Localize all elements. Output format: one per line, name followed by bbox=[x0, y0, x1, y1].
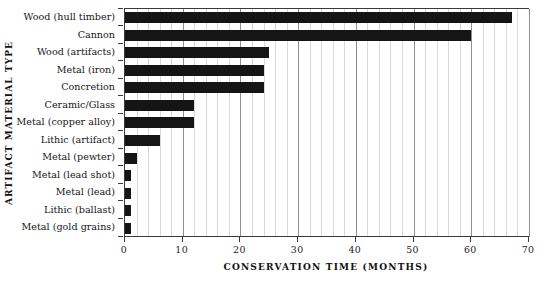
x-axis-title: CONSERVATION TIME (MONTHS) bbox=[124, 262, 528, 272]
x-tick-mark bbox=[182, 237, 183, 242]
y-tick-mark bbox=[118, 8, 123, 9]
bar-row bbox=[125, 149, 529, 167]
y-axis-tick-label: Metal (iron) bbox=[14, 61, 120, 79]
bar-chart: ARTIFACT MATERIAL TYPE Wood (hull timber… bbox=[0, 0, 544, 284]
y-tick-cell bbox=[118, 113, 124, 131]
y-tick-mark bbox=[118, 183, 123, 184]
y-tick-mark bbox=[118, 95, 123, 96]
y-tick-cell bbox=[118, 43, 124, 61]
bar-row bbox=[125, 114, 529, 132]
y-tick-mark bbox=[118, 200, 123, 201]
y-axis-tick-label: Lithic (artifact) bbox=[14, 131, 120, 149]
bar-row bbox=[125, 62, 529, 80]
y-tick-cell bbox=[118, 166, 124, 184]
bar bbox=[125, 12, 512, 23]
y-tick-mark bbox=[118, 165, 123, 166]
y-axis-tick-labels: Wood (hull timber)CannonWood (artifacts)… bbox=[14, 8, 120, 236]
x-axis-tick-labels: 010203040506070 bbox=[124, 244, 528, 258]
y-axis-title-label: ARTIFACT MATERIAL TYPE bbox=[4, 40, 14, 204]
bar bbox=[125, 65, 264, 76]
bar-row bbox=[125, 97, 529, 115]
x-tick-mark bbox=[297, 237, 298, 242]
x-tick-label: 60 bbox=[464, 244, 477, 255]
bar-row bbox=[125, 132, 529, 150]
gridline-major bbox=[529, 9, 530, 237]
bar-row bbox=[125, 184, 529, 202]
bar-row bbox=[125, 202, 529, 220]
bar bbox=[125, 30, 471, 41]
x-tick-mark bbox=[470, 237, 471, 242]
x-tick-mark bbox=[528, 237, 529, 242]
x-tick-label: 70 bbox=[522, 244, 535, 255]
x-tick-label: 50 bbox=[406, 244, 419, 255]
y-tick-cell bbox=[118, 8, 124, 26]
bar bbox=[125, 117, 194, 128]
bar-series bbox=[125, 9, 529, 237]
bar bbox=[125, 135, 160, 146]
x-tick-label: 10 bbox=[175, 244, 188, 255]
y-tick-mark bbox=[118, 25, 123, 26]
y-tick-cell bbox=[118, 148, 124, 166]
bar bbox=[125, 188, 131, 199]
y-axis-ticks bbox=[118, 8, 124, 236]
y-axis-tick-label: Metal (pewter) bbox=[14, 148, 120, 166]
y-axis-tick-label: Metal (lead shot) bbox=[14, 166, 120, 184]
x-tick-label: 40 bbox=[348, 244, 361, 255]
y-tick-cell bbox=[118, 131, 124, 149]
y-axis-tick-label: Wood (artifacts) bbox=[14, 43, 120, 61]
y-tick-cell bbox=[118, 78, 124, 96]
plot-area bbox=[124, 8, 529, 237]
bar-row bbox=[125, 27, 529, 45]
bar bbox=[125, 82, 264, 93]
y-axis-tick-label: Lithic (ballast) bbox=[14, 201, 120, 219]
x-tick-mark bbox=[413, 237, 414, 242]
y-tick-mark bbox=[118, 60, 123, 61]
bar-row bbox=[125, 79, 529, 97]
y-axis-end-tick bbox=[118, 236, 123, 237]
bar bbox=[125, 100, 194, 111]
y-axis-tick-label: Wood (hull timber) bbox=[14, 8, 120, 26]
y-tick-mark bbox=[118, 78, 123, 79]
bar-row bbox=[125, 219, 529, 237]
bar bbox=[125, 205, 131, 216]
bar bbox=[125, 47, 269, 58]
x-tick-label: 0 bbox=[121, 244, 127, 255]
y-tick-cell bbox=[118, 61, 124, 79]
y-tick-cell bbox=[118, 201, 124, 219]
bar-row bbox=[125, 44, 529, 62]
bar bbox=[125, 170, 131, 181]
y-axis-tick-label: Ceramic/Glass bbox=[14, 96, 120, 114]
bar bbox=[125, 153, 137, 164]
y-tick-mark bbox=[118, 113, 123, 114]
y-tick-mark bbox=[118, 218, 123, 219]
y-tick-cell bbox=[118, 26, 124, 44]
y-axis-tick-label: Metal (lead) bbox=[14, 183, 120, 201]
x-axis-ticks bbox=[124, 237, 528, 243]
y-axis-tick-label: Metal (gold grains) bbox=[14, 218, 120, 236]
bar-row bbox=[125, 167, 529, 185]
x-tick-mark bbox=[239, 237, 240, 242]
y-tick-cell bbox=[118, 183, 124, 201]
x-tick-label: 30 bbox=[291, 244, 304, 255]
bar-row bbox=[125, 9, 529, 27]
x-tick-mark bbox=[355, 237, 356, 242]
y-tick-mark bbox=[118, 130, 123, 131]
y-tick-mark bbox=[118, 148, 123, 149]
y-tick-mark bbox=[118, 43, 123, 44]
y-tick-cell bbox=[118, 218, 124, 236]
y-axis-tick-label: Concretion bbox=[14, 78, 120, 96]
bar bbox=[125, 223, 131, 234]
x-tick-mark bbox=[124, 237, 125, 242]
x-tick-label: 20 bbox=[233, 244, 246, 255]
y-axis-tick-label: Metal (copper alloy) bbox=[14, 113, 120, 131]
y-tick-cell bbox=[118, 96, 124, 114]
y-axis-tick-label: Cannon bbox=[14, 26, 120, 44]
